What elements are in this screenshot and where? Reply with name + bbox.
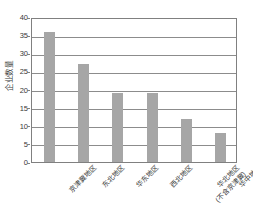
bar <box>181 119 192 163</box>
x-axis-tick-label-line: 西北地区 <box>169 164 194 189</box>
bars-group <box>32 19 236 162</box>
bar <box>78 64 89 162</box>
x-axis-tick-label-line: 东北地区 <box>101 164 126 189</box>
y-axis-tick-label: 5 <box>2 141 28 149</box>
bar <box>112 93 123 162</box>
y-axis-tick-mark <box>27 18 30 19</box>
y-axis-tick-label: 10 <box>2 123 28 131</box>
y-axis-tick-label: 15 <box>2 105 28 113</box>
y-axis-tick-mark <box>27 72 30 73</box>
bar <box>147 93 158 162</box>
bar-chart: 0510152025303540 企业数量 京津冀地区东北地区华东地区西北地区华… <box>0 0 253 221</box>
x-axis-tick-label: 华东地区 <box>135 164 161 190</box>
y-axis-title: 企业数量 <box>3 46 14 106</box>
bar <box>215 133 226 162</box>
y-axis-tick-mark <box>27 126 30 127</box>
y-axis-tick-mark <box>27 54 30 55</box>
y-axis-tick-label: 0 <box>2 159 28 167</box>
bar <box>44 32 55 163</box>
x-axis-labels: 京津冀地区东北地区华东地区西北地区华北地区(不含京津冀)华中地区 <box>31 164 237 221</box>
plot-area <box>31 18 237 163</box>
x-axis-tick-label: 东北地区 <box>101 164 127 190</box>
x-axis-tick-label: 西北地区 <box>169 164 195 190</box>
y-axis-tick-mark <box>27 163 30 164</box>
y-axis-tick-label: 35 <box>2 32 28 40</box>
x-axis-tick-label-line: 华东地区 <box>135 164 160 189</box>
y-axis-tick-mark <box>27 144 30 145</box>
y-axis-tick-label: 40 <box>2 14 28 22</box>
y-axis-tick-mark <box>27 36 30 37</box>
x-axis-tick-label-line: 京津冀地区 <box>68 164 98 194</box>
x-axis-tick-label: 京津冀地区 <box>68 164 99 195</box>
y-axis-tick-mark <box>27 108 30 109</box>
y-axis-tick-mark <box>27 90 30 91</box>
